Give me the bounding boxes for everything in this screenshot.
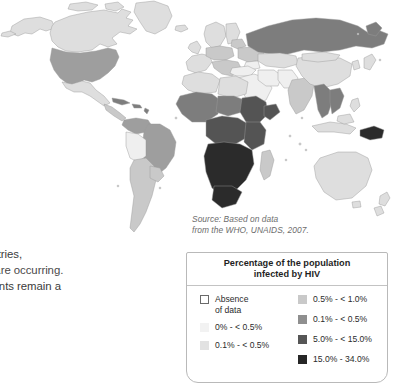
legend-item: 0% - < 0.5% xyxy=(200,322,289,333)
legend-column-right: 0.5% - < 1.0% 0.1% - < 0.5% 5.0% - < 15.… xyxy=(289,294,387,382)
body-line: veloping countries, xyxy=(0,246,196,262)
legend-swatch-0-to-0point5 xyxy=(200,323,209,332)
figure-page: .c{stroke:#9a9a9a;stroke-width:0.45;stro… xyxy=(0,0,393,389)
body-line: s of infection are occurring. xyxy=(0,262,196,278)
island-marker xyxy=(379,59,381,61)
island-marker xyxy=(305,149,307,151)
legend-item: 0.1% - < 0.5% xyxy=(200,340,289,351)
body-line: th of more xyxy=(0,213,196,229)
legend-title-line-1: Percentage of the population xyxy=(224,258,351,269)
legend-item: 0.5% - < 1.0% xyxy=(298,294,387,305)
region-germany-poland xyxy=(206,46,234,60)
body-line: edical treatments remain a xyxy=(0,278,196,294)
legend-item: 0.1% - < 0.5% xyxy=(298,314,387,325)
legend-label: 0% - < 0.5% xyxy=(215,322,262,333)
source-attribution: Source: Based on data from the WHO, UNAI… xyxy=(192,214,309,235)
body-line: n xyxy=(0,148,196,164)
body-line: lso xyxy=(0,164,196,180)
island-marker xyxy=(175,117,177,119)
island-marker xyxy=(285,159,287,161)
source-line-2: from the WHO, UNAIDS, 2007. xyxy=(192,225,309,236)
legend-title: Percentage of the population infected by… xyxy=(187,253,387,286)
island-marker xyxy=(301,117,303,119)
body-line: ne world. This xyxy=(0,229,196,245)
island-marker xyxy=(289,135,291,137)
island-marker xyxy=(299,143,301,145)
legend-swatch-15-to-34 xyxy=(298,355,307,364)
legend-swatch-0point1-to-0point5-dark xyxy=(298,315,307,324)
legend-column-left: Absence of data 0% - < 0.5% 0.1% - < 0.5… xyxy=(187,294,289,382)
legend-label: 0.1% - < 0.5% xyxy=(215,340,269,351)
body-paragraph: n lso c. e th of more ne world. This vel… xyxy=(0,148,196,295)
legend-label: 0.1% - < 0.5% xyxy=(313,314,367,325)
legend-label: 0.5% - < 1.0% xyxy=(313,294,367,305)
legend-swatch-0point1-to-0point5 xyxy=(200,341,209,350)
body-line: c. xyxy=(0,181,196,197)
source-line-1: Source: Based on data xyxy=(192,214,309,225)
legend-swatch-5-to-15 xyxy=(298,335,307,344)
legend-swatch-0point5-to-1 xyxy=(298,295,307,304)
legend-swatch-absence-of-data xyxy=(200,295,209,304)
island-marker xyxy=(357,33,359,35)
legend-item: Absence of data xyxy=(200,294,289,315)
map-legend: Percentage of the population infected by… xyxy=(186,252,388,383)
legend-label: 15.0% - 34.0% xyxy=(313,354,369,365)
legend-label: Absence of data xyxy=(215,294,248,315)
legend-item: 5.0% - < 15.0% xyxy=(298,334,387,345)
legend-item: 15.0% - 34.0% xyxy=(298,354,387,365)
body-line: e xyxy=(0,197,196,213)
legend-title-line-2: infected by HIV xyxy=(224,269,351,280)
legend-label: 5.0% - < 15.0% xyxy=(313,334,372,345)
region-tasmania xyxy=(352,201,361,208)
legend-entries: Absence of data 0% - < 0.5% 0.1% - < 0.5… xyxy=(187,286,387,382)
